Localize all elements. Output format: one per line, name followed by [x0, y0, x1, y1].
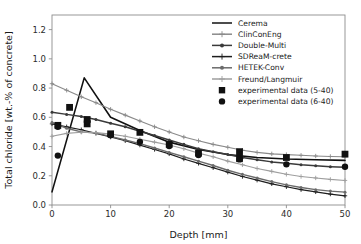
- legend-label: experimental data (6-40): [238, 97, 334, 106]
- data-point: [195, 152, 201, 158]
- x-tick-label: 50: [340, 209, 351, 219]
- legend-marker: [219, 87, 225, 93]
- data-point: [342, 151, 349, 158]
- series-marker: [182, 155, 185, 158]
- legend-entry: Cerema: [212, 19, 268, 28]
- y-tick-label: 0.0: [32, 200, 46, 210]
- series-marker: [241, 173, 244, 176]
- legend-label: SDReaM-crete: [238, 52, 292, 61]
- legend-label: ClinConEng: [238, 30, 282, 39]
- y-axis-title: Total chloride [wt.-% of concrete]: [3, 31, 14, 189]
- series-marker: [226, 153, 229, 156]
- series-marker: [329, 165, 332, 168]
- series-marker: [270, 160, 273, 163]
- series-marker: [124, 138, 127, 141]
- data-point: [236, 156, 242, 162]
- series-marker: [226, 169, 229, 172]
- chart-canvas: CeremaClinConEngDouble-MultiSDReaM-crete…: [0, 0, 361, 244]
- data-point: [66, 104, 73, 111]
- x-axis-title: Depth [mm]: [170, 229, 228, 240]
- series-marker: [300, 186, 303, 189]
- data-point: [166, 143, 172, 149]
- y-tick-label: 0.4: [32, 142, 46, 152]
- data-point: [137, 139, 143, 145]
- series-marker: [124, 125, 127, 128]
- legend-label: Cerema: [238, 19, 268, 28]
- series-marker: [285, 183, 288, 186]
- legend-label: Freund/Langmuir: [238, 75, 303, 84]
- legend-entry: Double-Multi: [212, 41, 286, 50]
- series-marker: [197, 160, 200, 163]
- x-tick-label: 20: [164, 209, 175, 219]
- series-marker: [256, 158, 259, 161]
- legend-entry: HETEK-Conv: [212, 63, 285, 72]
- series-marker: [51, 111, 54, 114]
- series-marker: [80, 115, 83, 118]
- series-marker: [109, 122, 112, 125]
- y-tick-label: 0.8: [32, 83, 46, 93]
- series-marker: [153, 147, 156, 150]
- data-series-group: [50, 78, 347, 198]
- series-marker: [270, 180, 273, 183]
- series-marker: [329, 190, 332, 193]
- data-point: [107, 132, 113, 138]
- y-tick-label: 0.6: [32, 112, 46, 122]
- series-marker: [256, 176, 259, 179]
- legend-entry: experimental data (5-40): [219, 86, 334, 95]
- chart-figure: CeremaClinConEngDouble-MultiSDReaM-crete…: [0, 0, 361, 244]
- axis-labels-group: 010203040500.00.20.40.60.81.01.2Depth [m…: [3, 25, 350, 240]
- legend-entry: experimental data (6-40): [219, 97, 334, 106]
- y-tick-label: 1.2: [32, 25, 46, 35]
- data-point: [236, 148, 243, 155]
- data-point: [84, 118, 90, 124]
- series-marker: [65, 113, 68, 116]
- series-marker: [212, 164, 215, 167]
- y-tick-label: 0.2: [32, 171, 46, 181]
- series-marker: [65, 127, 68, 130]
- x-tick-label: 0: [49, 209, 54, 219]
- series-marker: [153, 134, 156, 137]
- x-tick-label: 30: [222, 209, 233, 219]
- legend-marker: [220, 66, 224, 70]
- data-point: [283, 154, 290, 161]
- x-tick-label: 40: [281, 209, 292, 219]
- legend-label: HETEK-Conv: [238, 63, 285, 72]
- series-marker: [94, 118, 97, 121]
- series-marker: [314, 164, 317, 167]
- series-marker: [344, 191, 347, 194]
- series-marker: [212, 150, 215, 153]
- x-tick-label: 10: [105, 209, 116, 219]
- legend-entry: SDReaM-crete: [212, 52, 292, 61]
- chart-legend: CeremaClinConEngDouble-MultiSDReaM-crete…: [212, 19, 334, 106]
- series-marker: [182, 143, 185, 146]
- legend-entry: Freund/Langmuir: [212, 75, 303, 84]
- legend-entry: ClinConEng: [212, 30, 282, 39]
- data-point: [55, 124, 61, 130]
- legend-label: Double-Multi: [238, 41, 286, 50]
- series-marker: [51, 121, 54, 124]
- series-marker: [314, 188, 317, 191]
- data-point: [137, 129, 144, 136]
- data-point: [55, 152, 61, 158]
- axes-group: [49, 15, 345, 208]
- data-point: [283, 161, 289, 167]
- legend-marker: [219, 98, 225, 104]
- legend-label: experimental data (5-40): [238, 86, 334, 95]
- y-tick-label: 1.0: [32, 54, 46, 64]
- data-point: [342, 164, 348, 170]
- legend-marker: [220, 43, 224, 47]
- series-marker: [300, 163, 303, 166]
- series-marker: [168, 151, 171, 154]
